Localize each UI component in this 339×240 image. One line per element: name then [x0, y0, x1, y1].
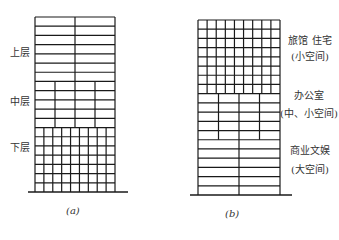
label-office: 办公室: [280, 90, 338, 102]
label-medium-small-space: (中、小空间): [278, 108, 339, 120]
caption-b: (b): [225, 208, 239, 219]
label-middle-floors: 中层: [10, 96, 30, 108]
label-upper-floors: 上层: [10, 47, 30, 59]
label-small-space: (小空间): [282, 51, 338, 63]
label-lower-floors: 下层: [10, 142, 30, 154]
caption-a: (a): [66, 205, 80, 216]
label-commercial-entertainment: 商业文娱: [282, 145, 338, 157]
label-hotel-residential: 旅馆 住宅: [282, 35, 338, 47]
label-large-space: (大空间): [282, 164, 338, 176]
